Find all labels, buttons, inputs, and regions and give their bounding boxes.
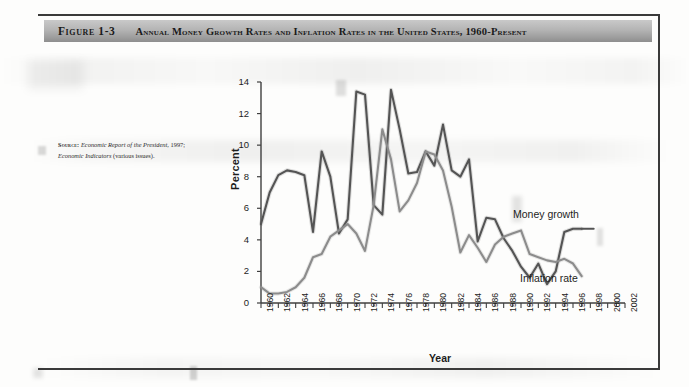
plot-svg: [0, 0, 689, 387]
x-tick-label: 1960: [265, 293, 275, 312]
series-label-money-growth: Money growth: [513, 208, 579, 220]
y-tick-label: 2: [227, 265, 249, 276]
x-tick-label: 1988: [508, 293, 518, 312]
y-tick-label: 14: [227, 76, 249, 87]
x-tick-label: 1962: [282, 293, 292, 312]
x-tick-label: 1980: [438, 293, 448, 312]
y-tick-label: 12: [227, 108, 249, 119]
x-tick-label: 1966: [317, 293, 327, 312]
x-tick-label: 1968: [334, 293, 344, 312]
series-label-inflation-rate: Inflation rate: [520, 272, 578, 284]
x-tick-label: 1964: [300, 293, 310, 312]
x-axis-title: Year: [380, 352, 500, 364]
x-tick-label: 1972: [369, 293, 379, 312]
x-tick-label: 1994: [560, 293, 570, 312]
x-tick-label: 1996: [577, 293, 587, 312]
y-tick-label: 4: [227, 234, 249, 245]
x-tick-label: 1976: [404, 293, 414, 312]
x-tick-label: 1986: [490, 293, 500, 312]
y-tick-label: 8: [227, 171, 249, 182]
x-tick-label: 2000: [612, 293, 622, 312]
line-chart: Percent Year 02468101214 196019621964196…: [0, 0, 689, 387]
x-tick-label: 1992: [542, 293, 552, 312]
x-tick-label: 1998: [594, 293, 604, 312]
x-tick-label: 1978: [421, 293, 431, 312]
x-tick-label: 1990: [525, 293, 535, 312]
x-tick-label: 1984: [473, 293, 483, 312]
y-tick-label: 10: [227, 139, 249, 150]
x-tick-label: 2002: [629, 293, 639, 312]
x-tick-label: 1970: [352, 293, 362, 312]
y-tick-label: 0: [227, 297, 249, 308]
x-tick-label: 1982: [456, 293, 466, 312]
y-tick-label: 6: [227, 202, 249, 213]
x-tick-label: 1974: [386, 293, 396, 312]
